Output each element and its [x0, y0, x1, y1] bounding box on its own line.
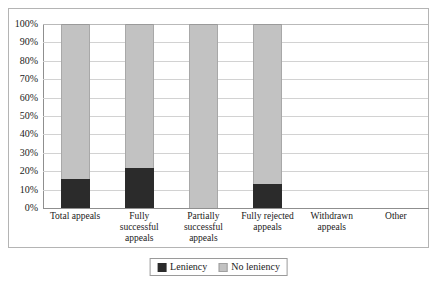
- stacked-bar: [253, 24, 282, 208]
- y-axis-tick-label: 70%: [20, 74, 38, 84]
- x-axis-tick-label-line: appeals: [171, 233, 235, 244]
- chart-legend: LeniencyNo leniency: [149, 258, 288, 276]
- plot-area: 100%90%80%70%60%50%40%30%20%10%0%: [43, 24, 428, 208]
- legend-item-label: No leniency: [231, 261, 280, 273]
- x-axis-tick-label: Other: [364, 211, 428, 222]
- y-axis-tick-label: 80%: [20, 56, 38, 66]
- bar-segment-leniency: [125, 168, 154, 208]
- x-axis-tick-label: Partiallysuccessfulappeals: [171, 211, 235, 244]
- stacked-bar-chart: 100%90%80%70%60%50%40%30%20%10%0% Total …: [0, 0, 437, 296]
- bar-segment-leniency: [253, 184, 282, 208]
- x-axis-tick-labels: Total appealsFullysuccessfulappealsParti…: [43, 211, 428, 251]
- bar-segment-leniency: [61, 179, 90, 208]
- bar-segment-no-leniency: [125, 24, 154, 168]
- bar-series-group: [43, 24, 428, 208]
- bar-column: [300, 24, 364, 208]
- y-axis-tick-label: 60%: [20, 93, 38, 103]
- bar-column: [43, 24, 107, 208]
- bar-segment-no-leniency: [61, 24, 90, 179]
- stacked-bar: [61, 24, 90, 208]
- stacked-bar: [189, 24, 218, 208]
- x-axis-tick-label-line: successful: [107, 222, 171, 233]
- y-axis-tick-label: 10%: [20, 185, 38, 195]
- stacked-bar: [125, 24, 154, 208]
- x-axis-tick-label: Fully rejectedappeals: [236, 211, 300, 233]
- y-axis-tick-label: 90%: [20, 37, 38, 47]
- bar-column: [107, 24, 171, 208]
- leniency-swatch: [157, 263, 166, 272]
- y-axis-tick-label: 20%: [20, 166, 38, 176]
- x-axis-tick-label: Fullysuccessfulappeals: [107, 211, 171, 244]
- x-axis-tick-label-line: Total appeals: [43, 211, 107, 222]
- bar-column: [171, 24, 235, 208]
- y-axis-tick-label: 50%: [20, 111, 38, 121]
- no-leniency-swatch: [218, 263, 227, 272]
- bar-segment-no-leniency: [189, 24, 218, 208]
- y-axis-tick-label: 40%: [20, 129, 38, 139]
- legend-item: No leniency: [218, 261, 280, 273]
- bar-segment-no-leniency: [253, 24, 282, 184]
- bar-column: [364, 24, 428, 208]
- x-axis-tick-label: Withdrawnappeals: [300, 211, 364, 233]
- x-axis-tick-label-line: Partially: [171, 211, 235, 222]
- x-axis-tick-label-line: appeals: [300, 222, 364, 233]
- x-axis-tick-label-line: Fully rejected: [236, 211, 300, 222]
- x-axis-tick-label-line: successful: [171, 222, 235, 233]
- y-axis-tick-label: 30%: [20, 148, 38, 158]
- legend-item-label: Leniency: [170, 261, 207, 273]
- y-axis-tick-label: 0%: [25, 203, 38, 213]
- bar-column: [236, 24, 300, 208]
- x-axis-line: [43, 208, 429, 209]
- legend-item: Leniency: [157, 261, 207, 273]
- y-axis-tick-label: 100%: [15, 19, 38, 29]
- x-axis-tick-label-line: Other: [364, 211, 428, 222]
- x-axis-tick-label-line: appeals: [107, 233, 171, 244]
- x-axis-tick-label-line: Withdrawn: [300, 211, 364, 222]
- x-axis-tick-label: Total appeals: [43, 211, 107, 222]
- x-axis-tick-label-line: appeals: [236, 222, 300, 233]
- x-axis-tick-label-line: Fully: [107, 211, 171, 222]
